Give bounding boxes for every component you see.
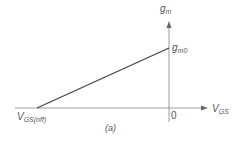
gm-line [37,48,169,108]
y-axis-label: gm [160,4,171,15]
vgs-off-label: VGS(off) [17,112,46,123]
x-axis-arrow-icon [201,106,208,111]
origin-label: 0 [171,111,177,121]
transconductance-graph [0,0,241,147]
vgs-off-label-main: V [17,111,24,122]
gm0-label: gm0 [172,43,187,54]
x-axis-label-sub: GS [219,108,229,115]
y-axis-label-sub: m [166,8,172,15]
x-axis-label: VGS [212,104,229,115]
y-axis-arrow-icon [167,21,172,28]
vgs-off-label-sub: GS(off) [24,116,47,123]
figure-caption: (a) [105,124,116,133]
x-axis-label-main: V [212,103,219,114]
gm0-label-sub: m0 [178,47,188,54]
